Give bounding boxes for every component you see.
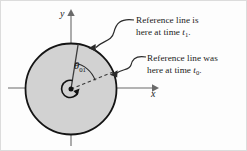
callout-t0-line-1: Reference line was [147, 53, 218, 65]
callout-reference-line-time-1: Reference line is here at time t1. [136, 15, 199, 38]
callout-t0-line-2: here at time t0. [147, 65, 218, 77]
physics-diagram-figure: y x θ01 Reference line is here at time t… [0, 0, 247, 151]
angle-theta-label: θ01 [74, 60, 86, 71]
callout-t1-line-1: Reference line is [136, 15, 199, 27]
callout-t1-leader-line [96, 20, 134, 48]
callout-t1-line-2: here at time t1. [136, 27, 199, 39]
callout-t0-leader-line [116, 57, 146, 74]
x-axis-label: x [151, 88, 155, 99]
callout-t1-line-2-prefix: here at time [136, 27, 182, 37]
y-axis-arrowhead [67, 9, 74, 16]
callout-reference-line-time-0: Reference line was here at time t0. [147, 53, 218, 76]
callout-t0-time-subscript: 0 [196, 69, 199, 76]
angle-subscript: 01 [79, 66, 86, 73]
y-axis-label: y [60, 8, 64, 19]
callout-t0-line-2-suffix: . [199, 65, 201, 75]
callout-t1-line-2-suffix: . [188, 27, 190, 37]
disk-center-dot [69, 87, 74, 92]
callout-t0-line-2-prefix: here at time [147, 65, 193, 75]
callout-t1-time-subscript: 1 [185, 31, 188, 38]
